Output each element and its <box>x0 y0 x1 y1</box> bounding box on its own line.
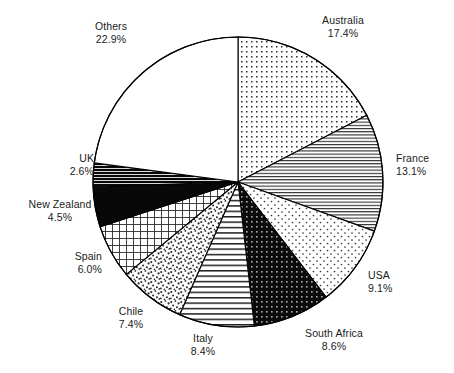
slice-label-others: Others 22.9% <box>78 20 144 46</box>
slice-label-france-name: France <box>396 152 454 165</box>
slice-label-others-name: Others <box>78 20 144 33</box>
slice-label-spain-name: Spain <box>46 250 102 263</box>
slice-label-uk-name: UK <box>38 152 94 165</box>
slice-label-australia-name: Australia <box>288 14 398 27</box>
slice-label-usa-name: USA <box>368 269 422 282</box>
pie-chart: Australia 17.4% France 13.1% USA 9.1% So… <box>0 0 454 373</box>
slice-label-uk: UK 2.6% <box>38 152 94 178</box>
slice-label-south-africa-name: South Africa <box>286 327 382 340</box>
slice-label-italy-name: Italy <box>176 332 230 345</box>
slice-label-others-value: 22.9% <box>78 33 144 46</box>
slice-label-usa-value: 9.1% <box>368 282 422 295</box>
slice-label-australia-value: 17.4% <box>288 27 398 40</box>
slice-label-chile-name: Chile <box>104 305 158 318</box>
slice-label-chile-value: 7.4% <box>104 318 158 331</box>
slice-label-uk-value: 2.6% <box>38 165 94 178</box>
pie-slice-others <box>94 37 238 182</box>
slice-label-new-zealand: New Zealand 4.5% <box>8 198 112 224</box>
slice-label-south-africa: South Africa 8.6% <box>286 327 382 353</box>
slice-label-france: France 13.1% <box>396 152 454 178</box>
slice-label-south-africa-value: 8.6% <box>286 340 382 353</box>
pie-chart-canvas <box>0 0 454 373</box>
slice-label-new-zealand-name: New Zealand <box>8 198 112 211</box>
slice-label-australia: Australia 17.4% <box>288 14 398 40</box>
slice-label-spain-value: 6.0% <box>46 263 102 276</box>
pie-slices <box>93 37 383 327</box>
slice-label-spain: Spain 6.0% <box>46 250 102 276</box>
slice-label-italy: Italy 8.4% <box>176 332 230 358</box>
slice-label-new-zealand-value: 4.5% <box>8 211 112 224</box>
slice-label-usa: USA 9.1% <box>368 269 422 295</box>
slice-label-italy-value: 8.4% <box>176 345 230 358</box>
slice-label-france-value: 13.1% <box>396 165 454 178</box>
slice-label-chile: Chile 7.4% <box>104 305 158 331</box>
